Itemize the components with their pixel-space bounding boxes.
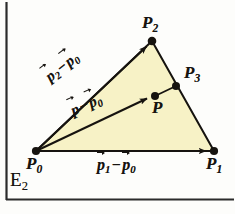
space-label-e2-text: E	[10, 169, 22, 190]
point-label-p2-subscript: 2	[152, 22, 158, 35]
point-label-p0-subscript: 0	[36, 163, 42, 176]
point-label-p3-text: P	[184, 63, 194, 82]
space-label-e2: E2	[10, 170, 28, 193]
point-p2-dot	[148, 37, 157, 46]
point-label-p1-text: P	[206, 154, 216, 173]
point-label-p2-text: P	[142, 13, 152, 32]
point-label-p2: P2	[142, 14, 158, 34]
point-label-p: P	[152, 99, 162, 116]
vector-label-p0-head: p	[122, 156, 130, 173]
point-label-p1: P1	[206, 155, 222, 175]
vector-label-p1-minus-p0: p1−p0	[97, 157, 135, 175]
figure-container: P2 P3 P P0 P1 E2 p1−p0 p2−p0 p−p0	[0, 0, 235, 214]
vector-arrow-p0: p	[122, 157, 130, 173]
vector-label-p0-subscript: 0	[130, 163, 135, 175]
point-label-p3-subscript: 3	[194, 72, 200, 85]
point-p3-dot	[172, 82, 180, 90]
vector-label-bottom-operator: −	[112, 156, 121, 173]
vector-arrow-bar-icon	[97, 152, 105, 153]
point-label-p-text: P	[152, 98, 162, 117]
vector-arrow-p1: p	[97, 157, 105, 173]
point-label-p1-subscript: 1	[216, 163, 222, 176]
vector-label-p1-head: p	[97, 156, 105, 173]
point-label-p0: P0	[26, 155, 42, 175]
point-label-p3: P3	[184, 64, 200, 84]
triangle-diagram	[0, 0, 235, 214]
space-label-e2-subscript: 2	[22, 179, 28, 193]
vector-label-p1-subscript: 1	[105, 163, 110, 175]
vector-arrow-bar-icon	[122, 152, 130, 153]
